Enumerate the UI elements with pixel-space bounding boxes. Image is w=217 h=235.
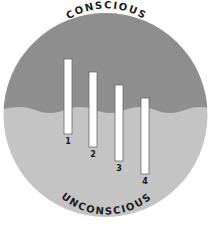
bar-label-1: 1 — [65, 137, 71, 146]
bar-4: 4 — [141, 98, 149, 186]
bar-3: 3 — [115, 85, 123, 173]
bar-2: 2 — [89, 72, 97, 159]
bar-label-4: 4 — [142, 177, 148, 186]
conscious-unconscious-diagram: CONSCIOUS UNCONSCIOUS 1 2 3 4 — [0, 0, 217, 235]
conscious-region — [0, 0, 217, 113]
bar-1: 1 — [64, 59, 72, 146]
circle — [0, 0, 217, 235]
bar-label-2: 2 — [90, 150, 96, 159]
bar-label-3: 3 — [116, 164, 122, 173]
